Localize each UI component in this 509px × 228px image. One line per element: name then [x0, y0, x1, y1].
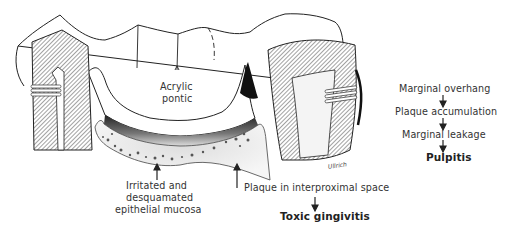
mucosa-label-line2: desquamated — [126, 192, 193, 203]
pontic-label-line1: Acrylic — [160, 81, 193, 92]
flow-step-marginal-leakage: Marginal leakage — [402, 129, 486, 140]
plaque-label: Plaque in interproximal space — [244, 182, 389, 193]
flow-result-pulpitis: Pulpitis — [426, 152, 472, 163]
pontic-label-line2: pontic — [162, 93, 192, 104]
toxic-gingivitis-label: Toxic gingivitis — [280, 211, 370, 222]
left-retention-pins — [31, 85, 61, 96]
flow-step-plaque-accumulation: Plaque accumulation — [395, 106, 497, 117]
mucosa-label-line1: Irritated and — [126, 180, 187, 191]
artist-signature: Ullrich — [328, 160, 348, 170]
mucosa-label-line3: epithelial mucosa — [115, 204, 201, 215]
flow-step-marginal-overhang: Marginal overhang — [399, 83, 490, 94]
